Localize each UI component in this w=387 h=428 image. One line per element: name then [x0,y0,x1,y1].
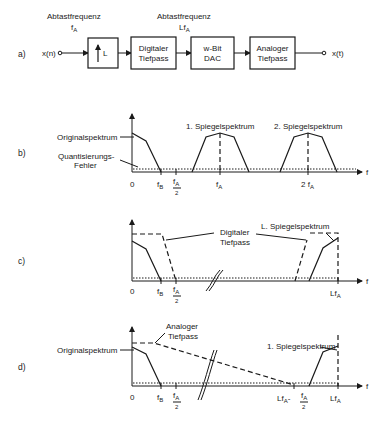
c-mirror-spectrum-L [309,238,338,281]
c-ticks: 0 fB fA 2 LfA [130,278,341,304]
svg-text:fA: fA [173,391,179,401]
rate1-title: Abtastfrequenz [47,12,101,21]
c-digital-lowpass-left [132,234,176,281]
d-axis-break-icon [198,350,217,400]
upsampler-factor: L [103,49,108,58]
input-signal-label: x(n) [42,49,56,58]
oversampling-dac-figure: a) Abtastfrequenz fA Abtastfrequenz LfA … [0,0,387,428]
dac-line2: DAC [204,54,221,63]
svg-text:LfA: LfA [330,289,341,299]
dac-line1: w-Bit [203,44,223,53]
d-mirror1-label: 1. Spiegelspektrum [267,342,336,351]
svg-text:2: 2 [175,298,179,304]
panel-a-block-diagram: a) Abtastfrequenz fA Abtastfrequenz LfA … [18,12,344,69]
svg-text:2: 2 [302,404,306,410]
svg-text:fB: fB [157,287,163,297]
d-analog-lp-label-2: Tiefpass [168,332,198,341]
b-mirror2-label: 2. Spiegelspektrum [274,122,343,131]
c-lp-leader-left [166,233,214,240]
svg-text:0: 0 [130,180,135,189]
svg-text:2 fA: 2 fA [301,180,314,190]
svg-text:fA: fA [173,285,179,295]
c-digital-lp-label-2: Tiefpass [220,238,250,247]
d-mirror-spectrum-1 [309,346,338,386]
b-original-label: Originalspektrum [57,133,118,142]
c-digital-lp-label-1: Digitaler [220,228,250,237]
b-axis-f: f [366,168,369,177]
svg-text:LfA-: LfA- [277,394,291,404]
d-analog-lp-label-1: Analoger [166,322,198,331]
d-axis-f: f [366,382,369,391]
digital-lowpass-block [131,37,176,69]
c-mirrorL-leader [326,233,334,241]
panel-d-label: d) [18,362,26,372]
svg-text:2: 2 [175,404,179,410]
c-digital-lowpass-right [295,240,307,281]
svg-text:fA: fA [216,180,222,190]
svg-text:2: 2 [175,190,179,196]
analog-lowpass-line1: Analoger [256,44,288,53]
dac-block [191,37,234,69]
digital-lowpass-line1: Digitaler [139,44,169,53]
panel-c-label: c) [18,256,25,266]
d-original-spectrum [132,347,161,386]
svg-text:fA: fA [173,177,179,187]
analog-lowpass-block [250,37,295,69]
c-original-spectrum [132,241,161,281]
panel-b-spectrum: b) f Originalspektrum Quantisierungs- Fe… [18,114,369,196]
output-terminal [322,51,326,55]
c-axis-f: f [366,277,369,286]
d-ticks: 0 fB fA 2 LfA- fA 2 LfA [130,383,341,410]
b-ticks: 0 fB fA 2 fA 2 fA [130,169,314,196]
d-analog-lp-leader [155,333,165,343]
d-original-label: Originalspektrum [57,346,118,355]
svg-text:0: 0 [130,287,135,296]
b-mirror1-label: 1. Spiegelspektrum [186,122,255,131]
svg-text:fA: fA [301,391,307,401]
digital-lowpass-line2: Tiefpass [139,54,169,63]
svg-text:0: 0 [130,393,135,402]
rate2-symbol: LfA [179,23,190,33]
c-mirrorL-label: L. Spiegelspektrum [261,222,330,231]
svg-text:LfA: LfA [330,394,341,404]
rate2-title: Abtastfrequenz [157,12,211,21]
input-terminal [58,51,62,55]
c-lp-leader-right [256,234,306,240]
analog-lowpass-line2: Tiefpass [258,54,288,63]
panel-d-spectrum: d) f Analoger Tiefpass Originalspektrum … [18,322,369,410]
b-quant-leader [120,160,138,167]
svg-text:fB: fB [157,180,163,190]
b-quant-label-2: Fehler [74,161,97,170]
panel-c-spectrum: c) f Digitaler Tiefpass L. Spiegelspektr… [18,220,369,304]
svg-text:fB: fB [157,393,163,403]
rate1-symbol: fA [71,23,77,33]
output-signal-label: x(t) [332,49,344,58]
panel-b-label: b) [18,148,26,158]
panel-a-label: a) [18,49,26,59]
b-quant-label-1: Quantisierungs- [58,152,115,161]
